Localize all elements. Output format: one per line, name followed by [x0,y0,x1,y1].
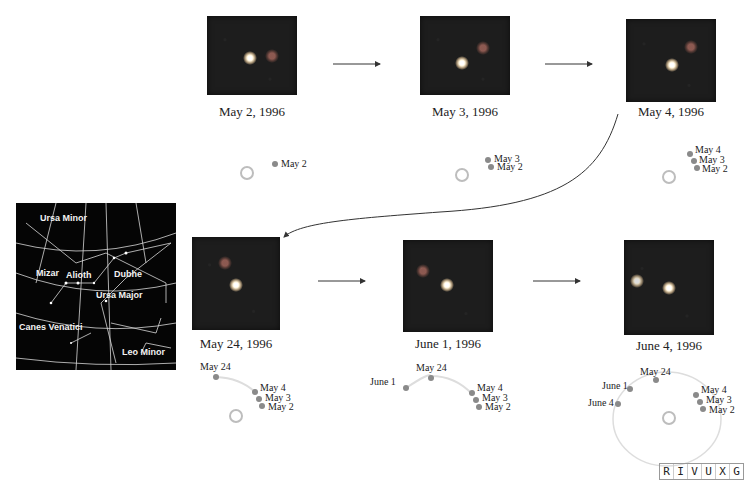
planet-icon [684,40,698,54]
position-dot-june1 [403,385,409,391]
label-may24: May 24 [640,366,671,377]
label-may2: May 2 [281,158,307,169]
panel-caption-may4: May 4, 1996 [626,104,716,120]
wavelength-g: G [730,464,743,479]
position-dot-may3 [485,157,491,163]
panel-caption-june1: June 1, 1996 [400,336,496,352]
label-may24: May 24 [416,362,447,373]
position-dot-may4 [693,392,699,398]
star-icon [440,278,454,292]
wavelength-x: X [716,464,730,479]
star-icon [229,278,243,292]
label-may2: May 2 [485,401,511,412]
panel-image-june4 [624,240,714,335]
label-dubhe: Dubhe [114,269,142,279]
position-dot-may2 [694,165,700,171]
wavelength-r: R [660,464,674,479]
position-dot-may24 [653,377,659,383]
star-marker [240,166,254,180]
label-may24: May 24 [200,361,231,372]
position-dot-june1 [627,386,633,392]
position-dot-may3 [256,396,262,402]
panel-image-may24 [192,237,280,330]
label-canes-venatici: Canes Venatici [19,322,83,332]
wavelength-v: V [688,464,702,479]
label-june4: June 4 [588,397,614,408]
planet-icon [265,49,279,63]
panel-caption-may3: May 3, 1996 [420,104,510,120]
star-marker [455,168,469,182]
arrow-may4-may24 [284,114,618,237]
position-dot-may4 [469,390,475,396]
planet-icon [218,256,232,270]
star-marker [662,170,676,184]
position-dot-may3 [473,397,479,403]
orbit-arc-may24 [216,377,255,392]
planet-icon [416,264,430,278]
label-leo-minor: Leo Minor [122,347,165,357]
star-icon [665,58,679,72]
star-marker [229,409,243,423]
label-mizar: Mizar [36,268,59,278]
label-alioth: Alioth [66,270,92,280]
label-ursa-major: Ursa Major [96,290,143,300]
position-dot-may4 [252,389,258,395]
label-may2: May 2 [497,161,523,172]
label-ursa-minor: Ursa Minor [40,213,87,223]
star-marker [662,411,676,425]
label-may2: May 2 [268,401,294,412]
sky-map-ursa-major: Ursa Minor Mizar Alioth Dubhe Ursa Major… [16,203,176,370]
position-dot-may2 [700,406,706,412]
position-dot-may2 [476,404,482,410]
panel-image-may4 [626,19,716,102]
position-dot-may2 [272,161,278,167]
constellation-lines [16,203,176,370]
orbit-arc-june1 [406,375,472,394]
planet-icon [476,41,490,55]
position-dot-may2 [259,403,265,409]
position-dot-may4 [687,151,693,157]
position-dot-june4 [615,401,621,407]
position-dot-may24 [428,375,434,381]
label-may2: May 2 [702,163,728,174]
wavelength-u: U [702,464,716,479]
position-dot-may3 [697,399,703,405]
label-may2: May 2 [709,404,735,415]
wavelength-bar: R I V U X G [659,463,744,480]
panel-image-may3 [420,16,510,95]
panel-caption-may2: May 2, 1996 [207,104,297,120]
label-june1: June 1 [602,380,628,391]
label-june1: June 1 [370,376,396,387]
panel-image-may2 [207,16,297,95]
planet-icon [630,274,644,288]
star-icon [662,281,676,295]
position-dot-may24 [213,374,219,380]
wavelength-i: I [674,464,688,479]
panel-caption-june4: June 4, 1996 [620,338,718,354]
position-dot-may3 [691,158,697,164]
panel-caption-may24: May 24, 1996 [190,336,282,352]
panel-image-june1 [403,240,493,332]
position-dot-may2 [488,164,494,170]
star-icon [455,56,469,70]
star-icon [243,51,257,65]
